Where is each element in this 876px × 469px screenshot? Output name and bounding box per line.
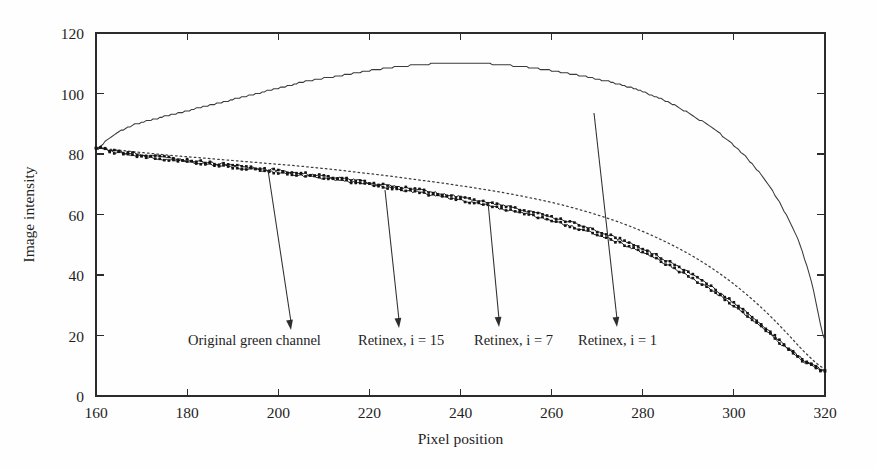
data-marker xyxy=(805,362,808,365)
data-marker xyxy=(550,215,553,218)
data-marker xyxy=(646,249,649,252)
data-marker xyxy=(528,213,531,216)
data-marker xyxy=(259,169,262,172)
x-tick-label: 280 xyxy=(631,404,655,421)
data-marker xyxy=(418,192,421,195)
data-marker xyxy=(532,211,535,214)
data-marker xyxy=(158,158,161,161)
x-tick-label: 260 xyxy=(540,404,564,421)
data-marker xyxy=(578,228,581,231)
data-marker xyxy=(733,305,736,308)
annotation-arrow-head xyxy=(495,317,502,327)
data-marker xyxy=(728,302,731,305)
data-marker xyxy=(496,202,499,205)
data-marker xyxy=(168,159,171,162)
y-tick-label: 80 xyxy=(69,146,85,163)
data-marker xyxy=(236,167,239,170)
y-tick-label: 40 xyxy=(69,267,85,284)
data-marker xyxy=(186,160,189,163)
data-marker xyxy=(801,360,804,363)
data-marker xyxy=(774,337,777,340)
data-marker xyxy=(327,178,330,181)
data-marker xyxy=(655,257,658,260)
data-marker xyxy=(263,170,266,173)
data-marker xyxy=(760,325,763,328)
data-marker xyxy=(250,167,253,170)
chart-text-labels: 1601802002202402602803003200204060801001… xyxy=(20,25,837,447)
data-marker xyxy=(714,289,717,292)
data-marker xyxy=(746,312,749,315)
data-marker xyxy=(213,164,216,167)
data-marker xyxy=(236,164,239,167)
data-marker xyxy=(514,206,517,209)
data-marker xyxy=(382,186,385,189)
data-marker xyxy=(764,330,767,333)
data-marker xyxy=(673,264,676,267)
data-marker xyxy=(473,198,476,201)
data-marker xyxy=(509,205,512,208)
data-marker xyxy=(610,233,613,236)
data-marker xyxy=(368,182,371,185)
data-marker xyxy=(541,213,544,216)
data-marker xyxy=(455,198,458,201)
data-marker xyxy=(405,186,408,189)
data-marker xyxy=(746,315,749,318)
x-tick-label: 200 xyxy=(267,404,291,421)
data-marker xyxy=(505,209,508,212)
data-marker xyxy=(163,155,166,158)
data-marker xyxy=(641,248,644,251)
data-marker xyxy=(696,276,699,279)
data-marker xyxy=(605,236,608,239)
data-marker xyxy=(678,266,681,269)
data-marker xyxy=(692,273,695,276)
data-marker xyxy=(719,294,722,297)
data-marker xyxy=(364,182,367,185)
data-marker xyxy=(181,159,184,162)
data-marker xyxy=(628,245,631,248)
data-marker xyxy=(664,260,667,263)
data-marker xyxy=(518,211,521,214)
data-marker xyxy=(564,220,567,223)
annotation-leader-line xyxy=(385,190,399,320)
data-marker xyxy=(714,291,717,294)
data-marker xyxy=(373,182,376,185)
y-tick-label: 100 xyxy=(61,86,85,103)
data-marker xyxy=(582,229,585,232)
data-marker xyxy=(664,263,667,266)
data-marker xyxy=(395,188,398,191)
data-marker xyxy=(122,153,125,156)
data-marker xyxy=(742,308,745,311)
data-marker xyxy=(359,182,362,185)
data-marker xyxy=(113,149,116,152)
data-marker xyxy=(377,185,380,188)
y-tick-label: 0 xyxy=(76,388,84,405)
chart-series xyxy=(95,63,827,373)
series-line-retinex-1 xyxy=(96,63,825,340)
data-marker xyxy=(637,245,640,248)
data-marker xyxy=(619,237,622,240)
data-marker xyxy=(172,159,175,162)
data-marker xyxy=(573,221,576,224)
data-marker xyxy=(564,224,567,227)
data-marker xyxy=(669,260,672,263)
data-marker xyxy=(245,165,248,168)
data-marker xyxy=(682,271,685,274)
data-marker xyxy=(482,203,485,206)
data-marker xyxy=(318,173,321,176)
data-marker xyxy=(559,221,562,224)
data-marker xyxy=(628,241,631,244)
figure-container: 1601802002202402602803003200204060801001… xyxy=(0,0,876,469)
data-marker xyxy=(386,187,389,190)
data-marker xyxy=(505,206,508,209)
y-tick-label: 20 xyxy=(69,328,85,345)
data-marker xyxy=(541,216,544,219)
data-marker xyxy=(464,201,467,204)
data-marker xyxy=(742,311,745,314)
data-marker xyxy=(427,191,430,194)
data-marker xyxy=(473,202,476,205)
data-marker xyxy=(163,159,166,162)
data-marker xyxy=(336,178,339,181)
data-marker xyxy=(591,232,594,235)
data-marker xyxy=(323,174,326,177)
data-marker xyxy=(450,197,453,200)
